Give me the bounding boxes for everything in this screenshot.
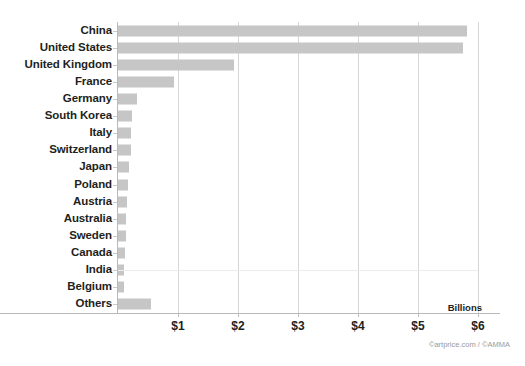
y-axis-tick	[113, 287, 117, 288]
bar-row: Germany	[0, 90, 525, 107]
x-axis-units-label: Billions	[448, 303, 482, 313]
bar-row: Italy	[0, 125, 525, 142]
y-axis-tick	[113, 150, 117, 151]
category-label: Austria	[73, 196, 112, 208]
category-label: Italy	[89, 128, 112, 140]
y-axis-tick	[113, 236, 117, 237]
bar	[118, 76, 174, 87]
y-axis-tick	[113, 31, 117, 32]
bar-row: Belgium	[0, 279, 525, 296]
y-axis-tick	[113, 133, 117, 134]
x-axis-tick-label: $3	[291, 320, 304, 332]
y-axis-tick	[113, 99, 117, 100]
bar	[118, 145, 131, 156]
bar-row: China	[0, 22, 525, 39]
bar-row: United Kingdom	[0, 56, 525, 73]
y-axis-tick	[113, 48, 117, 49]
x-axis-tick-mark	[178, 313, 179, 317]
category-label: Australia	[64, 213, 112, 225]
x-axis-tick-mark	[238, 313, 239, 317]
bar	[118, 248, 125, 259]
x-axis-tick-mark	[418, 313, 419, 317]
category-label: Germany	[63, 93, 112, 105]
x-axis-tick-label: $6	[471, 320, 484, 332]
y-axis-tick	[113, 167, 117, 168]
bar	[118, 94, 137, 105]
bar-row: Canada	[0, 245, 525, 262]
bar-row: France	[0, 73, 525, 90]
category-label: India	[86, 264, 112, 276]
bar	[118, 299, 151, 310]
category-label: China	[81, 25, 112, 37]
y-axis-tick	[113, 82, 117, 83]
bar	[118, 42, 463, 53]
x-axis-tick-label: $1	[171, 320, 184, 332]
x-axis-tick-mark	[478, 313, 479, 317]
y-axis-tick	[113, 202, 117, 203]
bar	[118, 230, 126, 241]
bar	[118, 128, 131, 139]
bar	[118, 282, 124, 293]
category-label: Japan	[79, 162, 112, 174]
y-axis-tick	[113, 116, 117, 117]
bar-row: Poland	[0, 176, 525, 193]
bar-row: Japan	[0, 159, 525, 176]
category-label: Canada	[71, 247, 112, 259]
y-axis-tick	[113, 219, 117, 220]
category-label: Belgium	[67, 282, 112, 294]
bar	[118, 111, 132, 122]
bar	[118, 25, 467, 36]
bar-row: United States	[0, 39, 525, 56]
bar-row: South Korea	[0, 108, 525, 125]
category-label: Sweden	[69, 230, 112, 242]
bar-row: Others	[0, 296, 525, 313]
x-axis-line	[0, 313, 500, 314]
y-axis-tick	[113, 65, 117, 66]
category-label: United States	[40, 42, 112, 54]
bar	[118, 196, 127, 207]
y-axis-tick	[113, 270, 117, 271]
y-axis-tick	[113, 185, 117, 186]
category-label: Poland	[74, 179, 112, 191]
y-axis-tick	[113, 253, 117, 254]
category-label: Switzerland	[49, 145, 112, 157]
bar-row: Switzerland	[0, 142, 525, 159]
bar-row: Austria	[0, 193, 525, 210]
bar-rows: ChinaUnited StatesUnited KingdomFranceGe…	[0, 22, 525, 313]
faint-horizontal-rule	[118, 270, 478, 271]
category-label: United Kingdom	[25, 59, 112, 71]
bar	[118, 59, 234, 70]
x-axis-tick-label: $4	[351, 320, 364, 332]
category-label: France	[75, 76, 112, 88]
bar-chart: ChinaUnited StatesUnited KingdomFranceGe…	[0, 0, 525, 366]
category-label: South Korea	[45, 110, 112, 122]
category-label: Others	[76, 299, 112, 311]
bar	[118, 213, 126, 224]
x-axis-tick-mark	[358, 313, 359, 317]
x-axis-tick-mark	[298, 313, 299, 317]
bar	[118, 179, 128, 190]
bar-row: Australia	[0, 210, 525, 227]
x-axis-tick-label: $2	[231, 320, 244, 332]
x-axis-tick-label: $5	[411, 320, 424, 332]
chart-credit: ©artprice.com / ©AMMA	[429, 341, 510, 349]
bar	[118, 162, 129, 173]
y-axis-tick	[113, 304, 117, 305]
bar-row: Sweden	[0, 227, 525, 244]
